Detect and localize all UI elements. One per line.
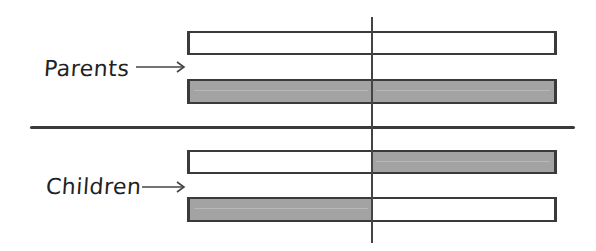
children-label: Children [45, 174, 142, 199]
crossover-line [371, 17, 373, 243]
parents-bar-2-right-segment [372, 81, 554, 102]
children-arrow-icon [141, 180, 187, 194]
parents-arrow-icon [135, 60, 187, 74]
generation-divider [30, 126, 575, 129]
parents-bar-1-right-segment [372, 33, 554, 53]
children-bar-2-left-segment [190, 199, 372, 220]
children-bar-1-right-segment [372, 152, 554, 172]
children-bar-2-right-segment [372, 199, 554, 220]
parents-label: Parents [43, 56, 130, 81]
chromosome-diagram: Parents Children [0, 0, 596, 251]
children-bar-1-left-segment [190, 152, 372, 172]
parents-bar-2-left-segment [190, 81, 372, 102]
parents-bar-1-left-segment [190, 33, 372, 53]
